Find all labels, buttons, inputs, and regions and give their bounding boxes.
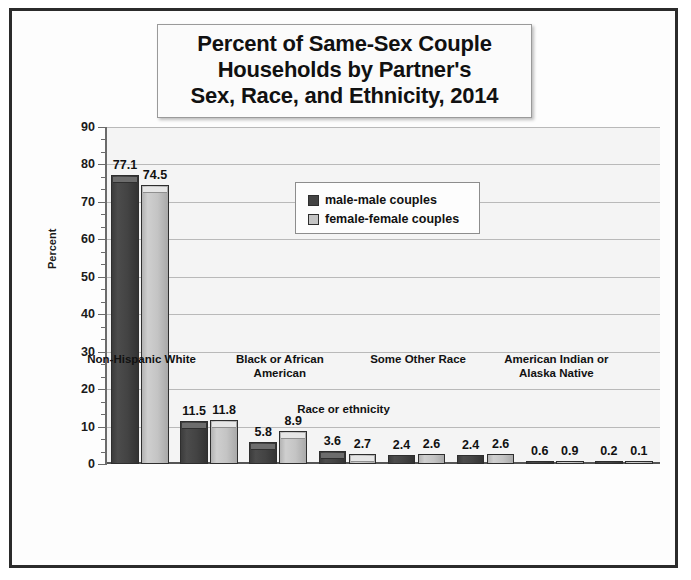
y-axis-tick-label: 90 bbox=[81, 120, 95, 134]
y-axis-minor-tick bbox=[101, 177, 105, 178]
y-axis-tick bbox=[98, 127, 105, 128]
chart-title-line-2: Households by Partner's bbox=[166, 57, 523, 83]
bar: 2.6 bbox=[487, 454, 515, 464]
y-axis-minor-tick bbox=[101, 264, 105, 265]
y-axis-minor-tick bbox=[101, 139, 105, 140]
bar: 0.6 bbox=[526, 461, 554, 464]
y-axis-tick bbox=[98, 164, 105, 165]
chart-canvas: Percent 77.174.511.511.85.88.93.62.72.42… bbox=[12, 11, 675, 565]
y-axis-minor-tick bbox=[101, 289, 105, 290]
bar: 0.2 bbox=[595, 461, 623, 464]
bar-value-label: 5.8 bbox=[255, 425, 272, 439]
y-axis-title: Percent bbox=[46, 229, 58, 269]
y-axis-minor-tick bbox=[101, 152, 105, 153]
y-axis-minor-tick bbox=[101, 189, 105, 190]
y-axis-minor-tick bbox=[101, 439, 105, 440]
y-axis-tick bbox=[98, 202, 105, 203]
y-axis-tick-label: 60 bbox=[81, 232, 95, 246]
bar-value-label: 2.4 bbox=[393, 438, 410, 452]
bar-top-bevel bbox=[321, 453, 345, 459]
y-axis-minor-tick bbox=[101, 302, 105, 303]
bar-face bbox=[526, 461, 554, 464]
bar-value-label: 0.6 bbox=[531, 444, 548, 458]
bar-value-label: 8.9 bbox=[285, 414, 302, 428]
bar-top-bevel bbox=[281, 433, 305, 439]
y-axis-minor-tick bbox=[101, 227, 105, 228]
bar-face bbox=[418, 454, 446, 464]
bar: 2.4 bbox=[457, 455, 485, 464]
bar-top-bevel bbox=[212, 422, 236, 428]
x-axis-category-label: American Indian or Alaska Native bbox=[481, 352, 631, 381]
y-axis-tick bbox=[98, 314, 105, 315]
y-axis-minor-tick bbox=[101, 252, 105, 253]
bar-top-bevel bbox=[143, 187, 167, 193]
x-axis-category-label: Non-Hispanic White bbox=[67, 352, 217, 366]
bar-value-label: 2.7 bbox=[354, 437, 371, 451]
bar-face bbox=[595, 461, 623, 464]
legend-item-female-female: female-female couples bbox=[308, 212, 473, 226]
bar: 3.6 bbox=[319, 451, 347, 464]
y-axis-tick-label: 0 bbox=[88, 457, 95, 471]
x-axis-category-label: Some Other Race bbox=[343, 352, 493, 366]
bar-face bbox=[388, 455, 416, 464]
bar-top-bevel bbox=[113, 177, 137, 183]
chart-title-line-1: Percent of Same-Sex Couple bbox=[166, 31, 523, 57]
bar-top-bevel bbox=[251, 444, 275, 450]
bar-value-label: 2.4 bbox=[462, 438, 479, 452]
y-axis-tick-label: 40 bbox=[81, 307, 95, 321]
chart-frame-border: Percent 77.174.511.511.85.88.93.62.72.42… bbox=[9, 8, 678, 568]
bar: 74.5 bbox=[141, 185, 169, 464]
bar-face bbox=[625, 461, 653, 464]
y-axis-tick-label: 10 bbox=[81, 420, 95, 434]
chart-title: Percent of Same-Sex Couple Households by… bbox=[157, 24, 532, 118]
bar: 5.8 bbox=[249, 442, 277, 464]
chart-legend: male-male couples female-female couples bbox=[295, 182, 480, 234]
legend-item-male-male: male-male couples bbox=[308, 193, 473, 207]
chart-title-line-3: Sex, Race, and Ethnicity, 2014 bbox=[166, 83, 523, 109]
y-axis-tick bbox=[98, 389, 105, 390]
x-axis-category-label: Black or African American bbox=[205, 352, 355, 381]
y-axis-tick bbox=[98, 277, 105, 278]
bar-face bbox=[556, 461, 584, 464]
y-axis-minor-tick bbox=[101, 214, 105, 215]
bar: 0.1 bbox=[625, 461, 653, 464]
y-axis-tick-label: 70 bbox=[81, 195, 95, 209]
legend-swatch-icon bbox=[308, 214, 319, 225]
bar-value-label: 0.9 bbox=[561, 444, 578, 458]
bar: 11.5 bbox=[180, 421, 208, 464]
bar: 2.6 bbox=[418, 454, 446, 464]
y-axis-minor-tick bbox=[101, 327, 105, 328]
y-axis-tick-label: 50 bbox=[81, 270, 95, 284]
bar: 2.4 bbox=[388, 455, 416, 464]
y-axis-tick-label: 80 bbox=[81, 157, 95, 171]
bar-face bbox=[457, 455, 485, 464]
bar-face bbox=[141, 185, 169, 464]
bar-value-label: 3.6 bbox=[324, 434, 341, 448]
x-axis-title: Race or ethnicity bbox=[12, 403, 675, 415]
bar-value-label: 74.5 bbox=[143, 168, 167, 182]
legend-label: female-female couples bbox=[325, 212, 459, 226]
bar: 77.1 bbox=[111, 175, 139, 464]
bar-face bbox=[111, 175, 139, 464]
bar: 2.7 bbox=[349, 454, 377, 464]
bar-value-label: 77.1 bbox=[113, 158, 137, 172]
legend-swatch-icon bbox=[308, 195, 319, 206]
y-axis-tick bbox=[98, 464, 105, 465]
y-axis-minor-tick bbox=[101, 339, 105, 340]
chart-image: Percent 77.174.511.511.85.88.93.62.72.42… bbox=[0, 0, 691, 580]
bar-face bbox=[487, 454, 515, 464]
bar: 8.9 bbox=[279, 431, 307, 464]
bar-value-label: 2.6 bbox=[492, 437, 509, 451]
y-axis-tick-label: 20 bbox=[81, 382, 95, 396]
bar-top-bevel bbox=[182, 423, 206, 429]
bar-value-label: 2.6 bbox=[423, 437, 440, 451]
y-axis-minor-tick bbox=[101, 377, 105, 378]
bar-top-bevel bbox=[351, 456, 375, 462]
legend-label: male-male couples bbox=[325, 193, 437, 207]
y-axis-tick bbox=[98, 427, 105, 428]
y-axis-tick bbox=[98, 239, 105, 240]
bar: 0.9 bbox=[556, 461, 584, 464]
bar: 11.8 bbox=[210, 420, 238, 464]
y-axis-minor-tick bbox=[101, 452, 105, 453]
bar-value-label: 0.2 bbox=[600, 444, 617, 458]
